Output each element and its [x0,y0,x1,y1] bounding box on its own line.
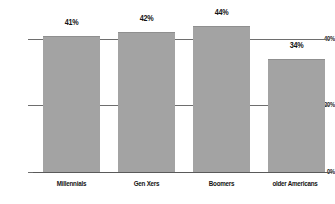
bar-value-label-millennials: 41% [49,17,95,27]
bar-value-label-gen-xers: 42% [124,13,170,23]
x-axis-line [33,172,332,173]
bar-gen-xers [118,32,175,172]
x-axis-category-label-gen-xers: Gen Xers [124,179,168,188]
bar-value-label-boomers: 44% [199,7,245,17]
bar-older-americans [268,59,325,172]
y-axis-tick-mark-40 [28,39,33,40]
bar-millennials [43,36,100,172]
plot-area: 41% 42% 44% 34% [33,0,330,172]
bar-value-label-older-americans: 34% [274,40,320,50]
x-axis-category-label-millennials: Millennials [49,179,93,188]
bar-chart: 40% 20% 0% 41% 42% 44% 34% Millennials G… [0,0,335,204]
bar-boomers [193,26,250,172]
x-axis-category-label-older-americans: older Americans [267,179,323,188]
x-axis-category-label-boomers: Boomers [199,179,243,188]
y-axis-tick-mark-20 [28,105,33,106]
